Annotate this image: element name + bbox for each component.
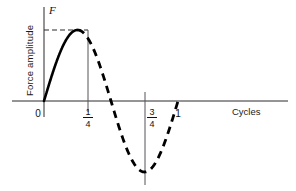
x-axis-label: Cycles: [232, 106, 261, 117]
x-tick-three-quarter-denominator: 4: [149, 119, 154, 129]
chart-svg: F Force amplitude Cycles 0 1 4 3 4 1: [0, 0, 296, 191]
x-tick-quarter-denominator: 4: [85, 119, 90, 129]
x-tick-quarter-numerator: 1: [85, 107, 90, 117]
y-axis-symbol: F: [48, 4, 56, 16]
x-tick-label-0: 0: [35, 108, 41, 119]
x-tick-three-quarter-numerator: 3: [149, 107, 154, 117]
y-axis-label: Force amplitude: [24, 25, 35, 96]
force-amplitude-chart: F Force amplitude Cycles 0 1 4 3 4 1: [0, 0, 296, 191]
x-tick-label-one: 1: [175, 108, 181, 119]
